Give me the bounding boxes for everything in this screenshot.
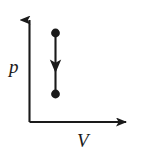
pv-diagram-canvas: p V <box>0 0 143 152</box>
start-state-point <box>51 29 60 38</box>
volume-axis-label: V <box>77 130 91 151</box>
pv-diagram-figure: p V <box>0 0 143 152</box>
isochoric-process <box>50 29 61 99</box>
end-state-point <box>51 90 60 99</box>
pressure-axis-label: p <box>7 56 19 77</box>
